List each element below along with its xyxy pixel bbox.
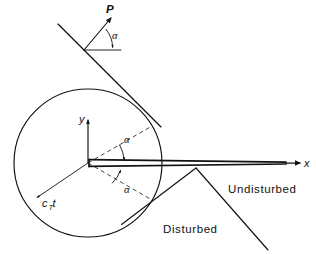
radius-label-group: c T t xyxy=(42,197,57,212)
upper-angle-arc xyxy=(120,145,125,160)
force-vector-P-arrow xyxy=(84,18,111,50)
radius-leader-line xyxy=(37,163,88,198)
lower-right-wave-line xyxy=(196,168,268,250)
top-angle-label: α xyxy=(112,30,118,41)
dashed-radius-lower xyxy=(88,163,152,200)
line-diagram-svg: P α y x α α c T t xyxy=(0,0,316,254)
upper-wave-line-group xyxy=(58,24,161,127)
radius-label-c: c xyxy=(42,197,48,209)
region-label-disturbed: Disturbed xyxy=(163,223,218,235)
plate-lower-surface xyxy=(89,164,286,166)
lower-angle-label: α xyxy=(124,184,130,195)
dashed-radius-upper xyxy=(88,126,152,163)
lower-left-wave-line xyxy=(122,168,197,225)
upper-angle-label: α xyxy=(124,134,130,145)
radius-label-t: t xyxy=(53,197,57,209)
y-axis-label: y xyxy=(78,113,86,125)
x-axis-label: x xyxy=(303,157,310,169)
force-vector-label: P xyxy=(106,3,114,15)
upper-wave-line xyxy=(58,24,161,127)
figure-container: P α y x α α c T t xyxy=(0,0,316,254)
region-label-undisturbed: Undisturbed xyxy=(228,183,297,195)
lower-angle-arc xyxy=(112,170,120,183)
plate-and-x-axis xyxy=(89,160,300,167)
plate-upper-surface xyxy=(89,160,286,163)
lower-wave-lines xyxy=(122,168,269,250)
